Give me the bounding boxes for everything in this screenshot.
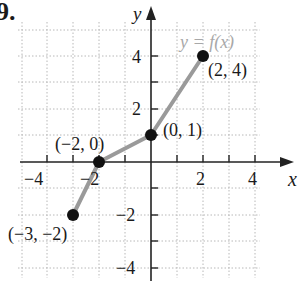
tick-label-y-m4: −4 [116, 258, 135, 278]
tick-label-y-m2: −2 [116, 205, 135, 225]
x-axis [20, 155, 294, 167]
y-axis [146, 6, 158, 281]
point-label-2-4: (2, 4) [208, 60, 247, 81]
x-axis-label: x [287, 168, 297, 190]
point-0-1 [145, 129, 157, 141]
point-label-0-1: (0, 1) [163, 120, 202, 141]
y-axis-arrow-icon [146, 6, 156, 20]
tick-label-y-2: 2 [132, 99, 141, 119]
function-graph: 9. y x y = f(x) −4 −2 2 4 4 2 −2 −4 (−3,… [0, 0, 304, 281]
tick-label-x-m4: −4 [24, 169, 43, 189]
tick-label-y-4: 4 [132, 47, 141, 67]
point-m3-m2 [67, 209, 79, 221]
x-axis-arrow-icon [280, 157, 294, 167]
tick-label-x-2: 2 [196, 169, 205, 189]
point-label-m2-0: (−2, 0) [55, 134, 104, 155]
function-label: y = f(x) [178, 32, 234, 53]
tick-label-x-m2: −2 [80, 169, 99, 189]
tick-label-x-4: 4 [248, 169, 257, 189]
point-m2-0 [93, 156, 105, 168]
problem-number: 9. [0, 0, 16, 26]
y-axis-label: y [131, 3, 142, 24]
point-label-m3-m2: (−3, −2) [8, 224, 67, 245]
